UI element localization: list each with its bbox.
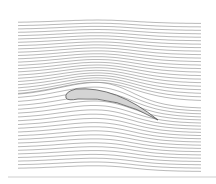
streamline-diagram bbox=[0, 0, 216, 184]
streamline bbox=[18, 127, 201, 139]
streamline bbox=[18, 131, 201, 142]
streamline bbox=[18, 78, 201, 94]
streamline bbox=[18, 106, 201, 124]
streamline bbox=[18, 20, 201, 23]
streamline bbox=[18, 42, 201, 48]
streamline bbox=[18, 166, 201, 172]
bottom-divider bbox=[8, 176, 216, 178]
streamline bbox=[18, 39, 201, 44]
